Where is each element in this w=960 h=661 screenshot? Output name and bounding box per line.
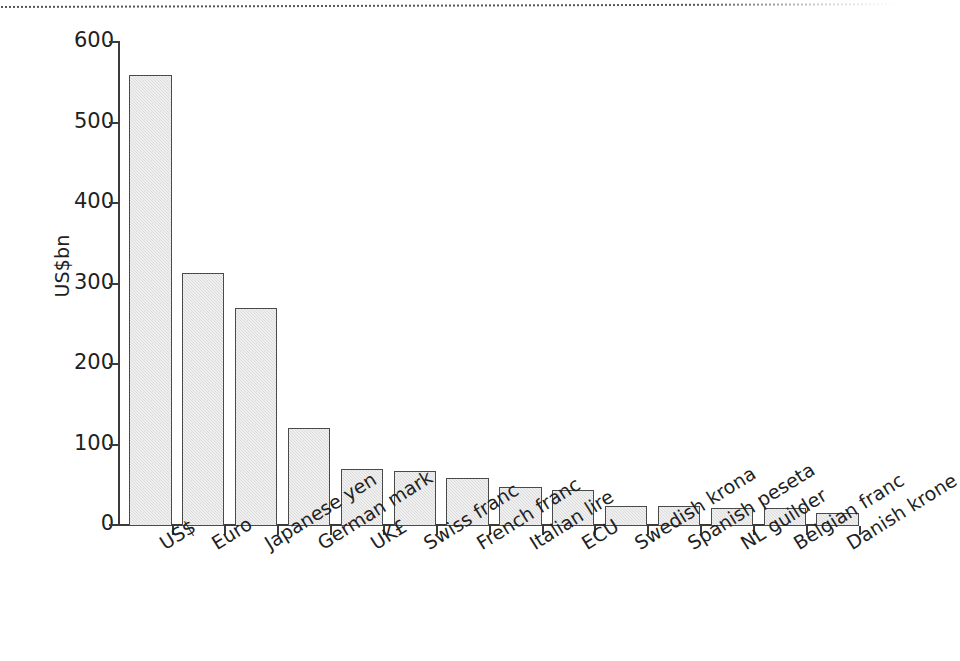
y-axis-tick-mark — [109, 41, 118, 43]
x-axis-tick-label: UK£ — [367, 536, 378, 553]
y-axis-tick-mark — [109, 283, 118, 285]
x-axis-tick-label: Euro — [208, 536, 219, 553]
x-axis-tick-label: Swiss franc — [420, 536, 431, 553]
y-axis-tick-mark — [109, 363, 118, 365]
bar — [235, 308, 277, 526]
x-axis-tick-label: German mark — [314, 536, 325, 553]
y-axis-tick-mark — [109, 444, 118, 446]
x-axis-tick-label: Italian lire — [526, 536, 537, 553]
x-axis-tick-label: Danish krone — [843, 536, 854, 553]
y-axis-tick-label: 200 — [54, 352, 114, 373]
y-axis-tick-label: 400 — [54, 191, 114, 212]
y-axis-tick-label: 600 — [54, 30, 114, 51]
scan-artifact-dotted-line — [0, 2, 898, 9]
y-axis-tick-labels: 0100200300400500600 — [54, 0, 114, 661]
y-axis-tick-label: 0 — [54, 513, 114, 534]
y-axis-tick-label: 100 — [54, 433, 114, 454]
bar — [182, 273, 224, 526]
x-axis-tick-label: Belgian franc — [790, 536, 801, 553]
x-axis-tick-label: French franc — [473, 536, 484, 553]
y-axis-tick-mark — [109, 122, 118, 124]
x-axis-tick-label: NL guilder — [737, 536, 748, 553]
x-axis-tick-label: US$ — [156, 536, 167, 553]
y-axis-tick-mark — [109, 524, 118, 526]
y-axis-tick-mark — [109, 202, 118, 204]
bar — [129, 75, 171, 526]
x-axis-tick-label: ECU — [578, 536, 589, 553]
plot-area — [118, 41, 860, 528]
x-axis-tick-label: Spanish peseta — [684, 536, 695, 553]
x-axis-tick-label: Swedish krona — [631, 536, 642, 553]
y-axis-tick-label: 300 — [54, 272, 114, 293]
y-axis-tick-label: 500 — [54, 111, 114, 132]
x-axis-tick-labels: US$EuroJapanese yenGerman markUK£Swiss f… — [118, 528, 878, 658]
x-axis-tick-label: Japanese yen — [261, 536, 272, 553]
y-axis-line — [118, 41, 120, 526]
